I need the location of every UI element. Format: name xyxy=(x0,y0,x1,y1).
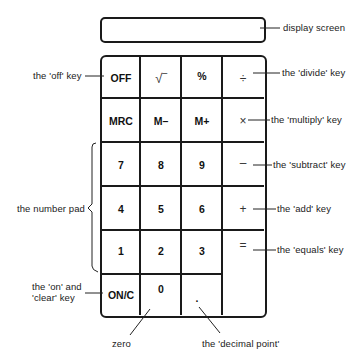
leader-lines xyxy=(0,0,358,362)
multiply-key-caption: the 'multiply' key xyxy=(271,114,342,125)
equals-key-caption: the 'equals' key xyxy=(277,244,344,255)
off-key-caption: the 'off' key xyxy=(33,70,82,81)
number-pad-caption: the number pad xyxy=(17,203,85,214)
decimal-point-caption: the 'decimal point' xyxy=(202,338,279,349)
display-screen-label: display screen xyxy=(283,22,345,33)
on-clear-key-caption: the 'on' and 'clear' key xyxy=(32,281,82,303)
divide-key-caption: the 'divide' key xyxy=(282,67,345,78)
subtract-key-caption: the 'subtract' key xyxy=(273,159,346,170)
add-key-caption: the 'add' key xyxy=(277,203,331,214)
zero-caption: zero xyxy=(112,338,131,349)
